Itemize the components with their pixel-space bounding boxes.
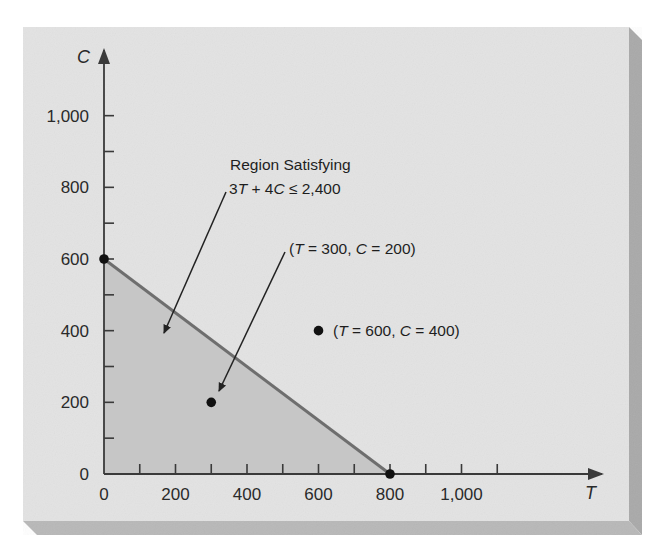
y-tick-label: 0 [80,465,89,484]
data-point [385,469,395,479]
x-tick-label: 400 [233,485,261,504]
data-point [99,254,109,264]
x-tick-label: 600 [304,485,332,504]
chart: 02004006008001,000 02004006008001,000 C … [0,0,663,554]
x-tick-label: 200 [161,485,189,504]
x-tick-label: 0 [99,485,108,504]
y-tick-label: 200 [61,393,89,412]
y-tick-label: 400 [61,322,89,341]
y-tick-label: 1,000 [46,107,89,126]
x-tick-label: 800 [376,485,404,504]
y-axis-label: C [77,47,91,67]
x-tick-label: 1,000 [440,485,483,504]
region-annotation-line1: Region Satisfying [230,156,351,173]
region-annotation-line2: 3T + 4C ≤ 2,400 [229,180,341,197]
y-tick-label: 800 [61,178,89,197]
point-600-400-label: (T = 600, C = 400) [333,322,460,339]
data-point [206,398,216,408]
data-point [314,326,324,336]
y-tick-label: 600 [61,250,89,269]
point-300-200-label: (T = 300, C = 200) [289,240,416,257]
